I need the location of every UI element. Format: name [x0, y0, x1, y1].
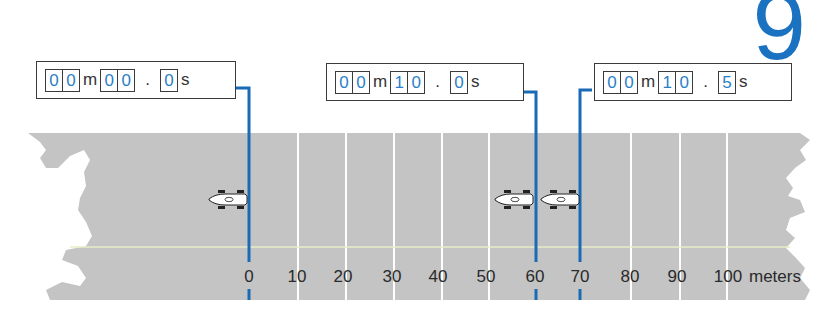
seconds-digits: 1 0 — [658, 71, 693, 94]
decimal-point: . — [135, 70, 160, 90]
tick-label: 50 — [477, 267, 496, 287]
minutes-digits: 0 0 — [335, 71, 370, 94]
tick-label: 90 — [668, 267, 687, 287]
digit: 0 — [451, 72, 467, 93]
track-surface — [28, 133, 810, 300]
minutes-unit: m — [638, 72, 658, 92]
seconds-digits: 0 0 — [100, 69, 135, 92]
tick-label: 40 — [429, 267, 448, 287]
tenths-digit: 0 — [160, 69, 178, 92]
track-diagram — [0, 0, 820, 319]
tick-label: 100 — [714, 267, 742, 287]
digit: 0 — [46, 70, 62, 91]
minutes-digits: 0 0 — [45, 69, 80, 92]
tick-label: 20 — [334, 267, 353, 287]
digit: 0 — [407, 72, 424, 93]
digit: 0 — [352, 72, 369, 93]
decimal-point: . — [693, 72, 718, 92]
tenths-digit: 0 — [450, 71, 468, 94]
tick-label: 60 — [526, 267, 545, 287]
digit: 0 — [161, 70, 177, 91]
digit: 0 — [620, 72, 637, 93]
seconds-unit: s — [736, 72, 751, 92]
digit: 0 — [604, 72, 620, 93]
tick-label: 80 — [621, 267, 640, 287]
axis-unit-label: meters — [749, 267, 801, 287]
minutes-digits: 0 0 — [603, 71, 638, 94]
seconds-unit: s — [468, 72, 483, 92]
tick-label: 10 — [288, 267, 307, 287]
digit: 0 — [101, 70, 117, 91]
digit: 0 — [336, 72, 352, 93]
decimal-point: . — [425, 72, 450, 92]
seconds-unit: s — [178, 70, 193, 90]
digit: 0 — [62, 70, 79, 91]
digit: 0 — [117, 70, 134, 91]
digit: 0 — [675, 72, 692, 93]
stopwatch-display-end: 0 0 m 1 0 . 5 s — [594, 63, 792, 101]
minutes-unit: m — [80, 70, 100, 90]
tenths-digit: 5 — [718, 71, 736, 94]
minutes-unit: m — [370, 72, 390, 92]
stopwatch-display-mid: 0 0 m 1 0 . 0 s — [326, 63, 524, 101]
seconds-digits: 1 0 — [390, 71, 425, 94]
digit: 1 — [391, 72, 407, 93]
digit: 5 — [719, 72, 735, 93]
tick-label: 0 — [244, 267, 253, 287]
digit: 1 — [659, 72, 675, 93]
tick-label: 70 — [571, 267, 590, 287]
stopwatch-display-start: 0 0 m 0 0 . 0 s — [36, 61, 236, 99]
tick-label: 30 — [383, 267, 402, 287]
